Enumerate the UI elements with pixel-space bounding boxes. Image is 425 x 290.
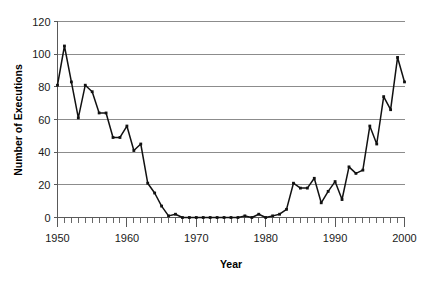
data-point-1968 (181, 216, 184, 219)
chart-background (0, 0, 425, 290)
data-point-1952 (70, 81, 73, 84)
x-tick-label-2000: 2000 (392, 232, 416, 244)
data-point-1991 (341, 198, 344, 201)
y-tick-label-80: 80 (38, 81, 50, 93)
data-point-1983 (285, 208, 288, 211)
data-point-1976 (237, 216, 240, 219)
data-point-1960 (126, 125, 129, 128)
x-axis-title: Year (220, 258, 242, 270)
data-point-1966 (167, 214, 170, 217)
data-point-1998 (389, 108, 392, 111)
x-tick-label-1990: 1990 (323, 232, 347, 244)
data-point-1967 (174, 213, 177, 216)
y-tick-label-60: 60 (38, 114, 50, 126)
data-point-1953 (77, 116, 80, 119)
data-point-1985 (299, 187, 302, 190)
data-point-1964 (153, 192, 156, 195)
y-axis-title: Number of Executions (12, 64, 24, 176)
x-tick-label-1970: 1970 (184, 232, 208, 244)
data-point-1977 (243, 214, 246, 217)
data-point-1984 (292, 182, 295, 185)
data-point-1996 (375, 143, 378, 146)
data-point-1956 (98, 112, 101, 115)
data-point-1992 (348, 165, 351, 168)
data-point-1972 (209, 216, 212, 219)
chart-canvas: 020406080100120 195019601970198019902000… (0, 0, 425, 290)
data-point-1950 (56, 84, 59, 87)
data-point-1987 (313, 177, 316, 180)
data-point-1999 (396, 56, 399, 59)
data-point-1961 (132, 149, 135, 152)
data-point-1971 (202, 216, 205, 219)
data-point-1965 (160, 205, 163, 208)
data-point-1974 (223, 216, 226, 219)
data-point-1990 (334, 180, 337, 183)
data-point-1954 (84, 84, 87, 87)
y-tick-label-120: 120 (32, 16, 50, 28)
data-point-1993 (355, 172, 358, 175)
data-point-1958 (112, 136, 115, 139)
x-tick-label-1980: 1980 (253, 232, 277, 244)
data-point-1962 (139, 143, 142, 146)
data-point-1955 (91, 90, 94, 93)
data-point-1973 (216, 216, 219, 219)
y-tick-label-40: 40 (38, 146, 50, 158)
x-tick-label-1960: 1960 (115, 232, 139, 244)
data-point-1995 (368, 125, 371, 128)
data-point-1982 (278, 213, 281, 216)
data-point-1988 (320, 201, 323, 204)
data-point-1963 (146, 182, 149, 185)
data-point-1989 (327, 190, 330, 193)
data-point-2000 (403, 81, 406, 84)
data-point-1994 (361, 169, 364, 172)
data-point-1978 (250, 216, 253, 219)
data-point-1986 (306, 187, 309, 190)
data-point-1951 (63, 45, 66, 48)
data-point-1959 (119, 136, 122, 139)
data-point-1997 (382, 95, 385, 98)
data-point-1969 (188, 216, 191, 219)
x-tick-label-1950: 1950 (45, 232, 69, 244)
data-point-1975 (230, 216, 233, 219)
y-tick-label-0: 0 (44, 212, 50, 224)
execution-line-chart: 020406080100120 195019601970198019902000… (0, 0, 425, 290)
data-point-1970 (195, 216, 198, 219)
data-point-1957 (105, 112, 108, 115)
data-point-1979 (257, 213, 260, 216)
data-point-1980 (264, 216, 267, 219)
y-tick-label-100: 100 (32, 48, 50, 60)
y-tick-label-20: 20 (38, 179, 50, 191)
data-point-1981 (271, 214, 274, 217)
